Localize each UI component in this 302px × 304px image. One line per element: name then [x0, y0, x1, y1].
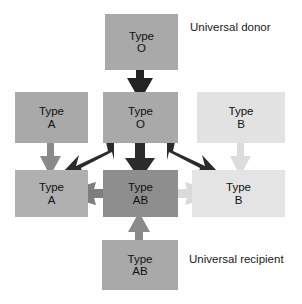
box-label-line1: Type: [128, 253, 153, 266]
box-recipient-type-b: Type B: [192, 170, 285, 217]
caption-universal-donor: Universal donor: [190, 21, 271, 34]
caption-universal-recipient: Universal recipient: [189, 253, 284, 266]
blood-type-compatibility-diagram: Type O Type A Type O Type B Type A Type …: [0, 0, 302, 304]
box-donor-type-o: Type O: [103, 92, 178, 143]
box-label-line2: AB: [132, 265, 147, 278]
box-label-line2: A: [48, 194, 56, 207]
box-label-line2: A: [48, 118, 56, 131]
box-label-line1: Type: [129, 30, 154, 43]
box-label-line2: AB: [133, 194, 148, 207]
box-recipient-type-ab: Type AB: [103, 170, 178, 217]
box-label-line2: B: [235, 194, 243, 207]
box-label-line2: O: [136, 118, 145, 131]
box-label-line2: B: [237, 118, 245, 131]
box-label-line1: Type: [39, 105, 64, 118]
box-label-line2: O: [137, 42, 146, 55]
box-universal-recipient-type-ab: Type AB: [102, 240, 178, 290]
box-donor-type-b: Type B: [197, 92, 285, 143]
box-recipient-type-a: Type A: [15, 170, 88, 217]
box-label-line1: Type: [128, 105, 153, 118]
box-donor-type-a: Type A: [15, 92, 88, 143]
box-label-line1: Type: [39, 181, 64, 194]
box-label-line1: Type: [128, 181, 153, 194]
box-label-line1: Type: [226, 181, 251, 194]
box-label-line1: Type: [229, 105, 254, 118]
box-universal-donor-type-o: Type O: [105, 14, 178, 70]
